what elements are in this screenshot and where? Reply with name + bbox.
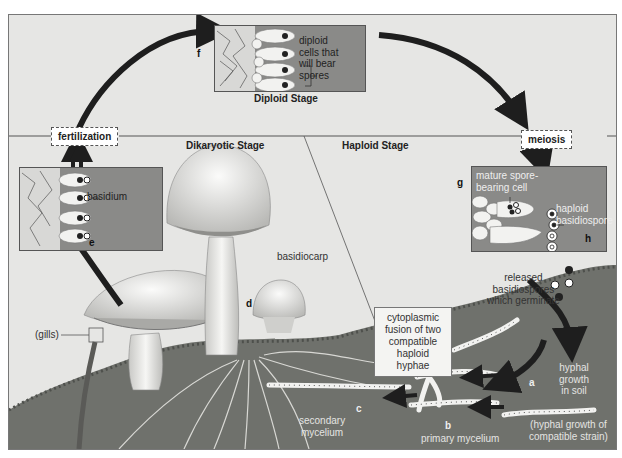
label-secondary-mycelium: secondary mycelium: [299, 415, 345, 438]
letter-h: h: [585, 233, 591, 244]
diagram-frame: diploid cells that will bear spores f Di…: [8, 14, 617, 450]
letter-f: f: [197, 48, 200, 59]
label-primary-mycelium: primary mycelium: [421, 433, 499, 445]
letter-b: b: [445, 420, 451, 431]
label-basidiocarp: basidiocarp: [277, 251, 328, 263]
letter-e: e: [89, 237, 95, 248]
letter-d: d: [246, 298, 252, 309]
label-diploid-cells: diploid cells that will bear spores: [299, 35, 338, 81]
stage-haploid: Haploid Stage: [342, 140, 409, 152]
diploid-cells-inset: [214, 25, 366, 92]
letter-a: a: [529, 377, 535, 388]
label-haploid-basidiospore: haploid basidiospore: [556, 203, 613, 226]
letter-g: g: [457, 177, 463, 188]
label-gills: (gills): [35, 329, 59, 341]
label-basidium: basidium: [87, 191, 127, 203]
meiosis-event: meiosis: [521, 130, 572, 149]
stage-dikaryotic: Dikaryotic Stage: [186, 140, 264, 152]
stage-diploid: Diploid Stage: [254, 93, 318, 105]
fertilization-event: fertilization: [51, 127, 118, 146]
label-hyphal-growth: hyphal growth in soil: [559, 362, 589, 397]
note-cytoplasmic-fusion: cytoplasmic fusion of two compatible hap…: [374, 307, 452, 377]
label-compatible-strain: (hyphal growth of compatible strain): [529, 419, 608, 442]
label-released-basidiospores: released basidiospores which germinate: [487, 272, 560, 307]
letter-c: c: [356, 403, 362, 414]
label-mature-spore-bearing-cell: mature spore- bearing cell: [476, 170, 538, 193]
